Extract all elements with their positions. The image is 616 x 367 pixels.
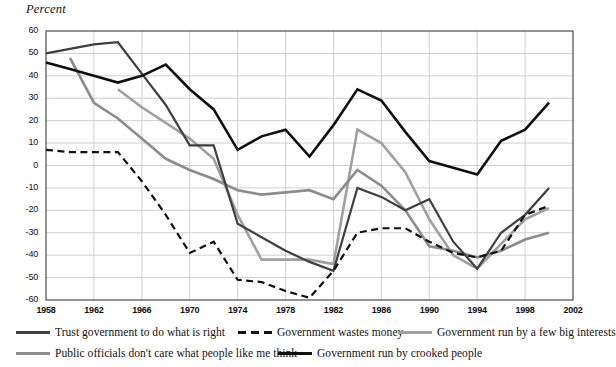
legend-swatch-bar [238,331,272,334]
legend-row-1: Trust government to do what is rightGove… [0,322,589,342]
legend-item-label: Trust government to do what is right [55,326,225,338]
y-tick-label: 20 [8,115,38,125]
y-tick-label: 0 [8,160,38,170]
x-tick-label: 2002 [553,305,593,315]
x-tick-label: 1998 [505,305,545,315]
legend-swatch-line-icon [16,326,50,338]
legend-item[interactable]: Government run by a few big interests [398,322,616,342]
y-tick-label: 60 [8,25,38,35]
legend-item-label: Government run by a few big interests [437,326,616,338]
legend-swatch-bar [16,331,50,334]
y-tick-label: -10 [8,182,38,192]
x-tick-label: 1982 [313,305,353,315]
x-tick-label: 1978 [266,305,306,315]
legend-item[interactable]: Government run by crooked people [278,343,482,363]
legend-item[interactable]: Trust government to do what is right [16,322,225,342]
legend-row-2: Public officials don't care what people … [0,343,589,363]
legend-item[interactable]: Public officials don't care what people … [16,343,297,363]
y-tick-label: -40 [8,249,38,259]
y-tick-label: -20 [8,204,38,214]
y-tick-label: -30 [8,227,38,237]
x-tick-label: 1962 [74,305,114,315]
legend-swatch-bar [16,352,50,355]
y-tick-label: -50 [8,272,38,282]
legend-item-label: Government run by crooked people [317,347,482,359]
legend-item[interactable]: Government wastes money [238,322,403,342]
x-tick-label: 1990 [409,305,449,315]
legend-swatch-line-icon [398,326,432,338]
legend-swatch-bar [278,352,312,355]
legend-swatch-line-icon [238,326,272,338]
y-tick-label: 50 [8,47,38,57]
y-tick-label: 30 [8,92,38,102]
x-tick-label: 1986 [361,305,401,315]
x-tick-label: 1974 [218,305,258,315]
y-tick-label: -60 [8,294,38,304]
x-tick-label: 1994 [457,305,497,315]
y-tick-label: 10 [8,137,38,147]
legend-item-label: Government wastes money [277,326,403,338]
legend-swatch-bar [398,331,432,334]
x-tick-label: 1966 [122,305,162,315]
y-tick-label: 40 [8,70,38,80]
legend-swatch-line-icon [16,347,50,359]
legend-swatch-line-icon [278,347,312,359]
legend-item-label: Public officials don't care what people … [55,347,297,359]
chart-legend: Trust government to do what is rightGove… [0,322,589,367]
x-tick-label: 1958 [26,305,66,315]
x-tick-label: 1970 [170,305,210,315]
